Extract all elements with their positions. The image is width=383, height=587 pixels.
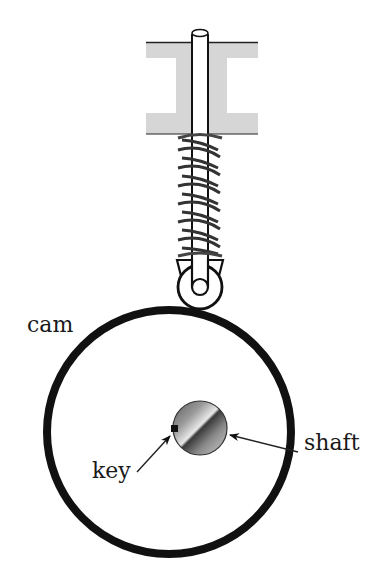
cam-follower-diagram [0, 0, 383, 587]
cam-disc [47, 310, 291, 554]
key-arrow [137, 436, 170, 472]
roller-follower [177, 258, 223, 309]
shaft-label: shaft [304, 432, 360, 454]
cam-label: cam [27, 314, 73, 336]
shaft [173, 401, 227, 455]
key-label: key [92, 460, 131, 482]
key [171, 425, 178, 432]
